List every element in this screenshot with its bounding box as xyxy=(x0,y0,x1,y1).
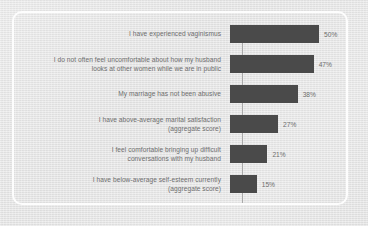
bar xyxy=(230,115,278,133)
bar-track: 38% xyxy=(230,81,338,107)
chart-row: I have below-average self-esteem current… xyxy=(20,171,338,197)
bar-track: 50% xyxy=(230,21,338,47)
bar-value-label: 27% xyxy=(283,121,296,128)
bar-track: 47% xyxy=(230,51,338,77)
chart-row: I have above-average marital satisfactio… xyxy=(20,111,338,137)
chart-row: I feel comfortable bringing up difficult… xyxy=(20,141,338,167)
bar-track: 27% xyxy=(230,111,338,137)
bar xyxy=(230,145,267,163)
bar-chart: I have experienced vaginismus 50% I do n… xyxy=(12,11,348,205)
bar-value-label: 50% xyxy=(324,31,337,38)
category-label: I have above-average marital satisfactio… xyxy=(20,115,230,133)
category-label: I have experienced vaginismus xyxy=(20,29,230,38)
chart-screenshot: I have experienced vaginismus 50% I do n… xyxy=(0,0,368,226)
bar xyxy=(230,85,298,103)
bar-value-label: 47% xyxy=(319,61,332,68)
category-label: I feel comfortable bringing up difficult… xyxy=(20,145,230,163)
plot-area: I have experienced vaginismus 50% I do n… xyxy=(20,17,338,199)
bar-value-label: 21% xyxy=(272,151,285,158)
bar xyxy=(230,175,257,193)
bar-track: 21% xyxy=(230,141,338,167)
chart-row: My marriage has not been abusive 38% xyxy=(20,81,338,107)
category-label: I do not often feel uncomfortable about … xyxy=(20,55,230,73)
category-label: My marriage has not been abusive xyxy=(20,89,230,98)
chart-row: I do not often feel uncomfortable about … xyxy=(20,51,338,77)
bar xyxy=(230,25,319,43)
bar-value-label: 15% xyxy=(262,181,275,188)
bar xyxy=(230,55,314,73)
bar-value-label: 38% xyxy=(303,91,316,98)
category-label: I have below-average self-esteem current… xyxy=(20,175,230,193)
bar-track: 15% xyxy=(230,171,338,197)
chart-row: I have experienced vaginismus 50% xyxy=(20,21,338,47)
